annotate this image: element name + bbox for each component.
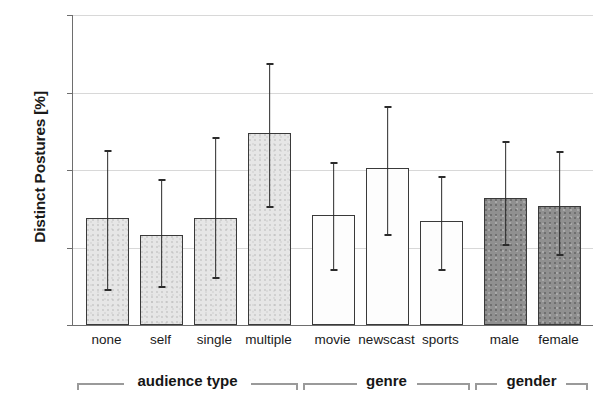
y-tick-mark — [67, 325, 73, 326]
y-tick-mark — [67, 93, 73, 94]
y-axis-title: Distinct Postures [%] — [31, 17, 49, 317]
group-label: gender — [475, 372, 588, 389]
error-bar-line — [505, 141, 506, 245]
group-label: genre — [303, 372, 470, 389]
error-bar-cap-lower — [330, 269, 337, 271]
x-tick-label: multiple — [233, 332, 304, 347]
bar-group — [366, 15, 409, 325]
group-bracket: genre — [303, 372, 470, 396]
bar-group — [312, 15, 355, 325]
error-bar-cap-upper — [384, 106, 391, 108]
bar-group — [194, 15, 237, 325]
error-bar-cap-lower — [266, 206, 273, 208]
error-bar-cap-lower — [212, 277, 219, 279]
y-tick-mark — [67, 170, 73, 171]
error-bar-line — [387, 106, 388, 233]
error-bar-line — [559, 151, 560, 253]
error-bar-cap-upper — [104, 150, 111, 152]
error-bar-line — [441, 176, 442, 269]
bar-group — [248, 15, 291, 325]
error-bar-cap-upper — [158, 179, 165, 181]
error-bar-line — [107, 150, 108, 290]
chart-figure: Distinct Postures [%] 05101520 noneselfs… — [0, 0, 610, 406]
error-bar-cap-lower — [502, 244, 509, 246]
error-bar-line — [333, 162, 334, 269]
group-bracket: gender — [475, 372, 588, 396]
plot-area: 05101520 — [72, 15, 593, 326]
error-bar-cap-upper — [438, 176, 445, 178]
bar-group — [140, 15, 183, 325]
error-bar-cap-lower — [438, 269, 445, 271]
error-bar-cap-upper — [330, 162, 337, 164]
bar-group — [484, 15, 527, 325]
group-bracket: audience type — [77, 372, 298, 396]
bar-group — [420, 15, 463, 325]
x-tick-label: sports — [405, 332, 476, 347]
error-bar-cap-upper — [266, 63, 273, 65]
group-label: audience type — [77, 372, 298, 389]
x-tick-label: female — [523, 332, 594, 347]
error-bar-cap-lower — [104, 289, 111, 291]
bar-group — [86, 15, 129, 325]
y-tick-mark — [67, 248, 73, 249]
error-bar-cap-lower — [158, 286, 165, 288]
bar-group — [538, 15, 581, 325]
error-bar-cap-upper — [212, 137, 219, 139]
error-bar-cap-upper — [502, 141, 509, 143]
error-bar-cap-upper — [556, 151, 563, 153]
error-bar-cap-lower — [384, 234, 391, 236]
error-bar-line — [161, 179, 162, 286]
error-bar-line — [215, 137, 216, 277]
error-bar-cap-lower — [556, 254, 563, 256]
y-tick-mark — [67, 15, 73, 16]
error-bar-line — [269, 63, 270, 206]
